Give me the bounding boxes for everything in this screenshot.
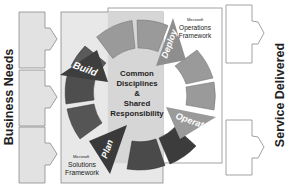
mof-line1: Operations <box>179 24 212 32</box>
mof-line2: Framework <box>179 32 212 39</box>
service-delivered-label: Service Delivered <box>273 43 287 147</box>
output-arrow-2 <box>226 120 264 175</box>
output-arrow-1 <box>226 5 264 63</box>
msf-mof-diagram: Business Needs Build Deploy <box>0 0 290 190</box>
center-line-1: Common <box>120 69 154 78</box>
center-line-3: & <box>134 89 140 98</box>
center-line-2: Disciplines <box>116 79 158 88</box>
input-arrow-1 <box>19 12 57 68</box>
input-arrow-2 <box>19 70 57 126</box>
center-line-4: Shared <box>124 99 151 108</box>
msf-small: Microsoft <box>73 154 90 159</box>
mof-small: Microsoft <box>187 17 204 22</box>
center-line-5: Responsibility <box>110 109 164 118</box>
msf-line2: Framework <box>65 169 100 176</box>
segment-right-mid <box>186 82 215 110</box>
input-arrow-3 <box>19 127 57 183</box>
business-needs-label: Business Needs <box>2 49 16 146</box>
msf-line1: Solutions <box>68 161 97 168</box>
